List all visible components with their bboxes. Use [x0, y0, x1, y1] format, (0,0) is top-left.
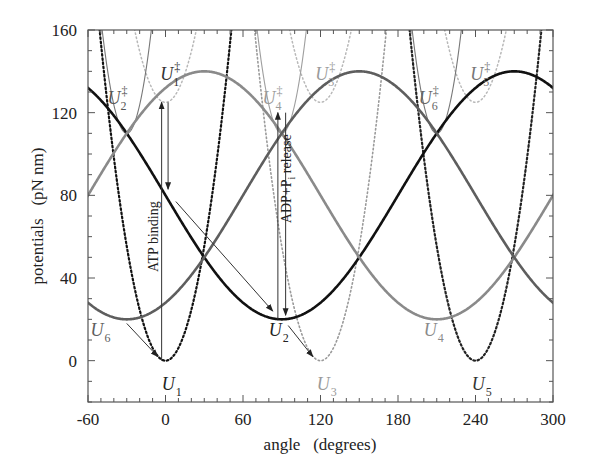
curve-label: U4	[424, 320, 444, 345]
x-tick-label: 300	[540, 410, 566, 429]
curve-label: U‡2	[107, 84, 127, 113]
transition-arrow	[127, 323, 158, 356]
x-tick-label: 120	[308, 410, 334, 429]
potential-chart: -6006012018024030004080120160 angle (deg…	[0, 0, 589, 469]
x-tick-label: 240	[463, 410, 489, 429]
curve-label: U5	[472, 374, 492, 399]
curves-layer	[85, 0, 555, 361]
process-annotation: ATP binding	[146, 201, 161, 272]
y-tick-label: 40	[60, 269, 77, 288]
x-tick-label: 180	[385, 410, 411, 429]
y-tick-label: 80	[60, 186, 77, 205]
process-annotation: ADP+Pi release	[279, 134, 297, 223]
y-tick-label: 160	[52, 21, 78, 40]
curve-label: U2	[269, 320, 289, 345]
curve-label: U3	[317, 374, 337, 399]
x-tick-label: 0	[161, 410, 170, 429]
x-tick-label: -60	[77, 410, 100, 429]
y-axis-label: potentials (pN nm)	[28, 148, 47, 285]
x-tick-label: 60	[235, 410, 252, 429]
curve-u4	[85, 71, 555, 319]
y-tick-label: 120	[52, 104, 78, 123]
curve-label: U1	[162, 374, 182, 399]
curve-label: U‡4	[262, 84, 282, 113]
curve-label: U‡6	[419, 84, 439, 113]
y-tick-label: 0	[69, 352, 78, 371]
transition-arrow	[176, 202, 273, 312]
curve-label: U6	[91, 320, 111, 345]
x-axis-label: angle (degrees)	[264, 435, 377, 454]
